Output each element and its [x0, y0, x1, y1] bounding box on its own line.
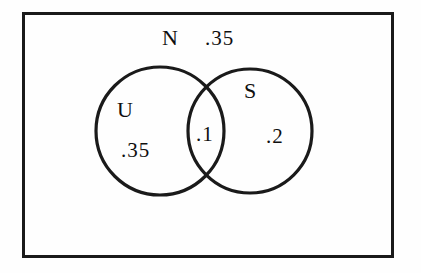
universe-label: N	[162, 27, 178, 49]
left-set-label: U	[117, 99, 133, 121]
intersection-value: .1	[196, 124, 214, 145]
right-set-value: .2	[266, 126, 284, 147]
venn-diagram-figure: N .35 U .35 .1 S .2	[0, 0, 421, 273]
right-set-label: S	[244, 80, 257, 102]
universe-value: .35	[205, 28, 234, 49]
left-set-value: .35	[121, 140, 150, 161]
